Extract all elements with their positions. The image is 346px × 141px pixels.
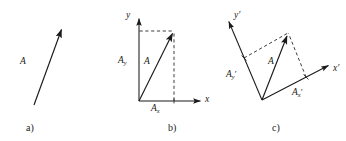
panel-b-x-component-subscript: x bbox=[157, 107, 160, 114]
panel-a-vector-arrow bbox=[34, 30, 62, 106]
panel-c-y-prime-component-prime: ′ bbox=[235, 69, 237, 79]
vector-components-figure: A a) y x Ay A Ax b) y′ x′ Ay′ A Ax′ c) bbox=[0, 0, 346, 141]
panel-b-vector-arrow bbox=[139, 34, 173, 102]
panel-c-x-prime-component-label: Ax′ bbox=[292, 88, 303, 98]
panel-a-vector-label: A bbox=[20, 57, 26, 67]
panel-b-y-axis-label: y bbox=[126, 11, 130, 21]
panel-b-x-component-label: Ax bbox=[151, 104, 160, 114]
panel-c-x-prime-component-prime: ′ bbox=[301, 87, 303, 97]
panel-c-caption: c) bbox=[272, 123, 280, 133]
panel-c-dashed-guide-from-y-prime bbox=[244, 33, 288, 58]
panel-c-y-prime-axis bbox=[229, 22, 262, 101]
panel-a-caption: a) bbox=[26, 123, 34, 133]
panel-c-x-prime-axis-prime: ′ bbox=[337, 63, 339, 73]
panel-c-graphics bbox=[229, 22, 329, 101]
figure-canvas bbox=[0, 0, 346, 141]
panel-b-caption: b) bbox=[168, 123, 176, 133]
panel-c-vector-label: A bbox=[268, 57, 274, 67]
panel-c-y-prime-component-label: Ay′ bbox=[226, 70, 237, 80]
panel-c-x-prime-component-tick bbox=[304, 75, 309, 80]
panel-b-x-axis-label: x bbox=[205, 95, 209, 105]
panel-b-y-component-subscript: y bbox=[124, 59, 127, 66]
panel-b-y-component-label: Ay bbox=[118, 56, 127, 66]
panel-c-x-prime-axis-label: x′ bbox=[333, 64, 339, 74]
panel-c-dashed-guide-from-x-prime bbox=[289, 34, 307, 78]
panel-b-vector-label: A bbox=[144, 57, 150, 67]
panel-c-y-prime-axis-prime: ′ bbox=[238, 10, 240, 20]
panel-a-graphics bbox=[34, 30, 62, 106]
panel-c-y-prime-axis-label: y′ bbox=[234, 11, 240, 21]
